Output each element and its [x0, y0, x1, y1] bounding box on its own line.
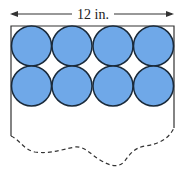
circle — [12, 66, 52, 106]
arrow-right-icon — [166, 11, 174, 17]
torn-edge — [11, 128, 174, 166]
dimension-arrow: 12 in. — [10, 7, 174, 22]
dimension-label: 12 in. — [77, 7, 109, 22]
circle — [134, 66, 174, 106]
circle — [93, 66, 133, 106]
circle — [12, 26, 52, 66]
circle — [93, 26, 133, 66]
circle-grid — [12, 26, 174, 106]
circle — [52, 26, 92, 66]
arrow-left-icon — [10, 11, 18, 17]
circle — [134, 26, 174, 66]
diagram-canvas: 12 in. — [0, 0, 183, 179]
circle — [52, 66, 92, 106]
